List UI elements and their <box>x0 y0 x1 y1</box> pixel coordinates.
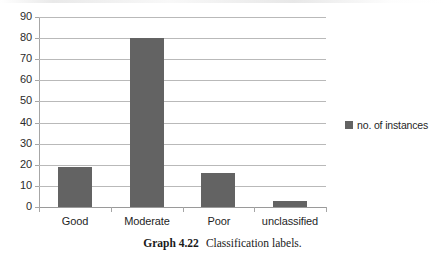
x-axis-endcap-4 <box>326 207 327 212</box>
x-axis-label-moderate: Moderate <box>111 215 183 228</box>
bar-chart-figure: 0102030405060708090 GoodModeratePooruncl… <box>0 0 445 261</box>
figure-caption-text: Classification labels. <box>206 237 302 249</box>
legend-label-no-of-instances: no. of instances <box>357 119 428 131</box>
figure-caption-number: Graph 4.22 <box>143 237 199 249</box>
plot-area <box>39 17 326 207</box>
y-axis-label-90: 90 <box>8 11 32 22</box>
y-axis-label-40: 40 <box>8 117 32 128</box>
x-axis-endcap-0 <box>39 207 40 212</box>
y-axis-label-0: 0 <box>8 201 32 212</box>
x-axis-label-poor: Poor <box>183 215 255 228</box>
x-axis-separator-2 <box>183 207 184 212</box>
y-axis-label-30: 30 <box>8 138 32 149</box>
bar-good <box>58 167 92 207</box>
bar-poor <box>201 173 235 207</box>
chart-legend: no. of instances <box>345 119 428 131</box>
x-axis-label-good: Good <box>39 215 111 228</box>
x-axis-separator-3 <box>254 207 255 212</box>
y-axis-label-10: 10 <box>8 180 32 191</box>
y-axis-label-20: 20 <box>8 159 32 170</box>
y-axis-label-60: 60 <box>8 74 32 85</box>
bar-moderate <box>130 38 164 207</box>
y-axis-label-80: 80 <box>8 32 32 43</box>
x-axis-separator-1 <box>111 207 112 212</box>
legend-swatch-icon <box>345 121 353 129</box>
y-axis-label-50: 50 <box>8 95 32 106</box>
x-axis-label-unclassified: unclassified <box>254 215 326 228</box>
figure-caption: Graph 4.22Classification labels. <box>0 237 445 249</box>
bar-unclassified <box>273 201 307 207</box>
y-axis-label-70: 70 <box>8 53 32 64</box>
